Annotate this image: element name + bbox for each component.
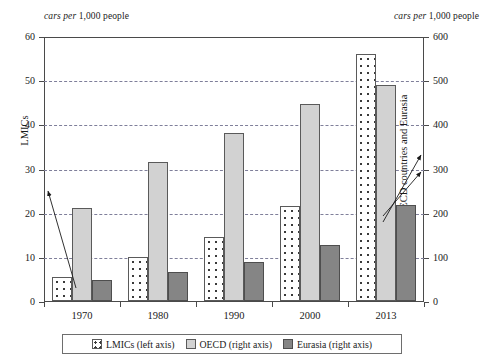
x-tick-label: 2013 bbox=[356, 310, 416, 321]
legend-swatch-oecd-icon bbox=[186, 339, 196, 349]
bar-2000-oecd bbox=[300, 104, 320, 301]
x-tick-mark bbox=[44, 302, 45, 307]
left-tick-label: 30 bbox=[1, 165, 35, 175]
right-unit-rest: 1,000 people bbox=[426, 11, 479, 21]
right-tick-mark bbox=[424, 214, 429, 215]
left-tick-label: 20 bbox=[1, 209, 35, 219]
left-tick-mark bbox=[39, 81, 44, 82]
bar-2000-eurasia bbox=[320, 245, 340, 301]
bar-2013-eurasia bbox=[396, 205, 416, 301]
bar-1990-eurasia bbox=[244, 262, 264, 301]
bar-2013-lmics bbox=[356, 54, 376, 301]
x-tick-mark bbox=[120, 302, 121, 307]
left-tick-mark bbox=[39, 258, 44, 259]
x-tick-label: 1980 bbox=[128, 310, 188, 321]
right-tick-label: 0 bbox=[433, 297, 467, 307]
bar-1980-oecd bbox=[148, 162, 168, 301]
bar-1990-oecd bbox=[224, 133, 244, 301]
bar-1980-lmics bbox=[128, 257, 148, 301]
legend-swatch-lmics-icon bbox=[92, 339, 102, 349]
x-tick-mark bbox=[348, 302, 349, 307]
right-tick-mark bbox=[424, 170, 429, 171]
right-unit-italic: cars per bbox=[394, 11, 426, 21]
x-tick-mark bbox=[272, 302, 273, 307]
plot-area bbox=[44, 37, 424, 302]
bar-1990-lmics bbox=[204, 237, 224, 301]
x-tick-label: 1990 bbox=[204, 310, 264, 321]
chart-legend: LMICs (left axis)OECD (right axis)Eurasi… bbox=[62, 334, 402, 354]
right-tick-label: 100 bbox=[433, 253, 467, 263]
legend-label: OECD (right axis) bbox=[200, 339, 272, 350]
legend-label: LMICs (left axis) bbox=[106, 339, 175, 350]
x-tick-label: 1970 bbox=[52, 310, 112, 321]
left-tick-label: 50 bbox=[1, 76, 35, 86]
bar-1970-oecd bbox=[72, 208, 92, 301]
legend-item-eurasia[interactable]: Eurasia (right axis) bbox=[283, 339, 372, 350]
right-tick-label: 600 bbox=[433, 32, 467, 42]
plot-frame-bottom bbox=[44, 301, 424, 302]
x-tick-mark bbox=[196, 302, 197, 307]
left-tick-label: 10 bbox=[1, 253, 35, 263]
x-tick-label: 2000 bbox=[280, 310, 340, 321]
right-tick-mark bbox=[424, 37, 429, 38]
legend-item-lmics[interactable]: LMICs (left axis) bbox=[92, 339, 175, 350]
left-unit-italic: cars per bbox=[44, 11, 76, 21]
left-tick-label: 40 bbox=[1, 120, 35, 130]
left-tick-mark bbox=[39, 170, 44, 171]
right-tick-label: 200 bbox=[433, 209, 467, 219]
legend-item-oecd[interactable]: OECD (right axis) bbox=[186, 339, 272, 350]
right-axis-unit-caption: cars per 1,000 people bbox=[394, 11, 479, 21]
right-tick-mark bbox=[424, 258, 429, 259]
left-tick-label: 60 bbox=[1, 32, 35, 42]
left-unit-rest: 1,000 people bbox=[76, 11, 129, 21]
bar-1970-eurasia bbox=[92, 280, 112, 301]
right-tick-mark bbox=[424, 125, 429, 126]
chart-container: cars per 1,000 people cars per 1,000 peo… bbox=[0, 0, 495, 363]
left-axis-title: LMICs bbox=[19, 101, 30, 161]
x-tick-mark bbox=[424, 302, 425, 307]
bar-2000-lmics bbox=[280, 206, 300, 301]
left-tick-label: 0 bbox=[1, 297, 35, 307]
left-tick-mark bbox=[39, 125, 44, 126]
left-tick-mark bbox=[39, 37, 44, 38]
left-axis-unit-caption: cars per 1,000 people bbox=[44, 11, 129, 21]
bar-1970-lmics bbox=[52, 277, 72, 301]
left-tick-mark bbox=[39, 214, 44, 215]
bar-2013-oecd bbox=[376, 85, 396, 301]
right-tick-label: 500 bbox=[433, 76, 467, 86]
right-tick-mark bbox=[424, 81, 429, 82]
legend-swatch-eurasia-icon bbox=[283, 339, 293, 349]
right-tick-label: 400 bbox=[433, 120, 467, 130]
legend-label: Eurasia (right axis) bbox=[297, 339, 372, 350]
bar-1980-eurasia bbox=[168, 272, 188, 301]
right-tick-label: 300 bbox=[433, 165, 467, 175]
plot-frame-top bbox=[44, 37, 424, 38]
